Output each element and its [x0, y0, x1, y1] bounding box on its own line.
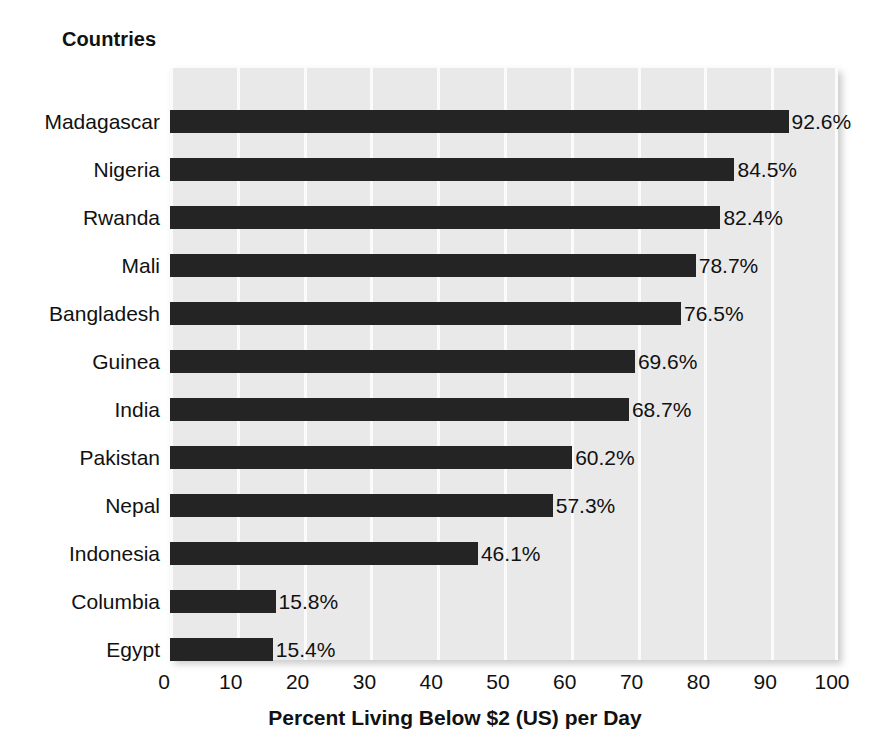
x-axis-tick-labels: 0102030405060708090100	[0, 668, 896, 700]
category-label: Madagascar	[0, 110, 160, 133]
category-label: Guinea	[0, 350, 160, 373]
category-label: Columbia	[0, 590, 160, 613]
x-tick-label: 80	[687, 668, 710, 696]
bar	[170, 446, 572, 469]
category-label: India	[0, 398, 160, 421]
category-label: Rwanda	[0, 206, 160, 229]
category-axis-heading: Countries	[62, 28, 156, 51]
bar	[170, 350, 635, 373]
bar	[170, 158, 734, 181]
bar	[170, 638, 273, 661]
x-axis-title: Percent Living Below $2 (US) per Day	[0, 706, 896, 730]
category-label: Egypt	[0, 638, 160, 661]
x-tick-label: 30	[353, 668, 376, 696]
category-axis-labels: MadagascarNigeriaRwandaMaliBangladeshGui…	[0, 68, 160, 660]
bar	[170, 206, 720, 229]
bar	[170, 254, 696, 277]
bar-chart: Countries MadagascarNigeriaRwandaMaliBan…	[0, 0, 896, 756]
plot-area	[170, 68, 838, 660]
x-tick-label: 100	[814, 668, 849, 696]
x-tick-label: 20	[286, 668, 309, 696]
bar	[170, 590, 276, 613]
bar	[170, 542, 478, 565]
category-label: Bangladesh	[0, 302, 160, 325]
x-tick-label: 10	[219, 668, 242, 696]
x-tick-label: 70	[620, 668, 643, 696]
category-label: Nepal	[0, 494, 160, 517]
category-label: Nigeria	[0, 158, 160, 181]
x-tick-label: 40	[420, 668, 443, 696]
bars-layer	[170, 68, 838, 660]
x-tick-label: 0	[158, 668, 170, 696]
bar	[170, 110, 789, 133]
bar	[170, 398, 629, 421]
x-tick-label: 90	[754, 668, 777, 696]
x-axis-title-text: Percent Living Below $2 (US) per Day	[268, 706, 641, 730]
bar	[170, 302, 681, 325]
x-tick-label: 60	[553, 668, 576, 696]
x-tick-label: 50	[486, 668, 509, 696]
category-label: Indonesia	[0, 542, 160, 565]
category-label: Mali	[0, 254, 160, 277]
category-label: Pakistan	[0, 446, 160, 469]
bar	[170, 494, 553, 517]
